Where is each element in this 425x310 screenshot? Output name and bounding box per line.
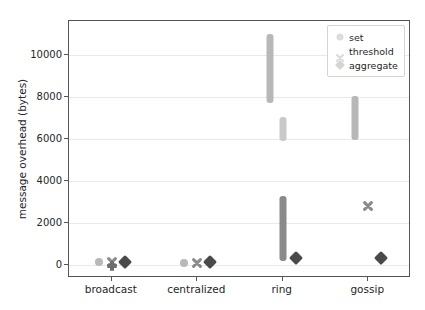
x-tick-label: ring <box>271 283 292 295</box>
x-tick-label: centralized <box>167 283 225 295</box>
gridline <box>69 181 409 182</box>
plus-marker-svg <box>106 260 117 271</box>
legend-item[interactable]: set <box>331 30 400 44</box>
x-tick-mark <box>111 277 112 281</box>
gridline <box>69 265 409 266</box>
y-tick-label: 0 <box>6 259 62 270</box>
chart-figure: message overhead (bytes) 020004000600080… <box>0 0 425 310</box>
x-tick-label: broadcast <box>85 283 137 295</box>
legend-item-label: set <box>349 32 364 43</box>
legend-item-label: aggregate <box>349 60 398 71</box>
data-point-marker <box>363 201 373 211</box>
x-tick-label: gossip <box>350 283 384 295</box>
data-point-marker <box>180 259 188 267</box>
gridline <box>69 139 409 140</box>
gridline <box>69 223 409 224</box>
legend-item[interactable]: threshold <box>331 44 400 58</box>
x-marker-svg <box>363 201 373 211</box>
x-marker-svg <box>192 258 202 268</box>
diamond-marker-icon <box>331 58 349 72</box>
y-tick-label: 4000 <box>6 175 62 186</box>
x-marker-icon <box>331 44 349 58</box>
y-tick-label: 6000 <box>6 132 62 143</box>
data-point-marker <box>118 255 132 269</box>
data-point-marker <box>203 255 217 269</box>
data-point-marker <box>374 251 388 265</box>
data-point-cluster <box>352 96 359 140</box>
legend-item[interactable]: aggregate <box>331 58 400 72</box>
circle-marker-icon <box>331 30 349 44</box>
legend: set threshold aggregate <box>327 25 405 77</box>
data-point-cluster <box>279 117 286 141</box>
y-tick-label: 8000 <box>6 90 62 101</box>
x-tick-mark <box>367 277 368 281</box>
data-point-marker <box>106 256 117 267</box>
data-point-cluster <box>279 196 286 261</box>
legend-item-label: threshold <box>349 46 394 57</box>
data-point-marker <box>192 258 202 268</box>
data-point-marker <box>95 258 103 266</box>
y-tick-label: 2000 <box>6 217 62 228</box>
data-point-cluster <box>266 34 273 104</box>
y-tick-label: 10000 <box>6 48 62 59</box>
x-tick-mark <box>196 277 197 281</box>
x-tick-mark <box>282 277 283 281</box>
data-point-marker <box>289 251 303 265</box>
